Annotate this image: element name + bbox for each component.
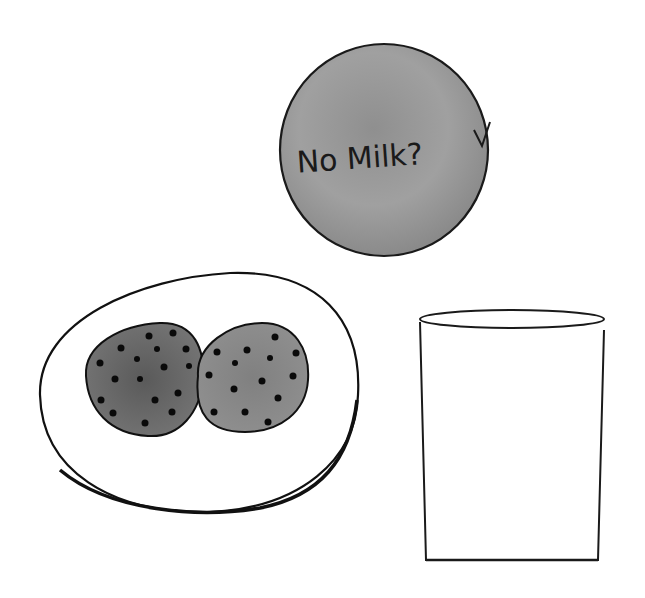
glass-rim — [420, 310, 604, 328]
plate — [40, 273, 358, 512]
right-cookie — [197, 323, 308, 432]
illustration-canvas: No Milk? — [0, 0, 645, 598]
glass-body — [420, 322, 604, 560]
empty-glass — [420, 310, 604, 560]
no-milk-bubble: No Milk? — [280, 44, 490, 256]
